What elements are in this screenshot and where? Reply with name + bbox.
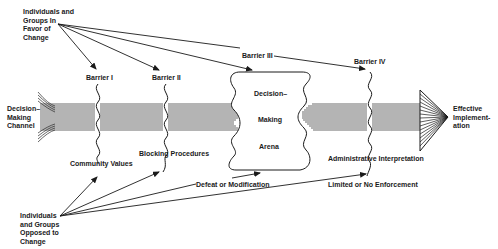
outcome-label: Effective Implement- ation bbox=[453, 105, 490, 131]
arena-label-line1: Decision– bbox=[254, 90, 287, 99]
barrier-4-label: Barrier IV bbox=[354, 58, 386, 67]
opposed-arrows bbox=[60, 172, 366, 216]
channel-segment-3 bbox=[168, 104, 242, 130]
barrier-2-line bbox=[163, 84, 168, 172]
opposed-group-label: Individuals and Groups Opposed to Change bbox=[20, 212, 59, 246]
enforcement-label: Limited or No Enforcement bbox=[328, 181, 418, 190]
channel-stripes bbox=[38, 92, 420, 142]
barrier-diagram bbox=[0, 0, 498, 249]
defeat-modification-label: Defeat or Modification bbox=[196, 181, 270, 190]
in-favor-arrows bbox=[58, 24, 365, 70]
barrier-1-label: Barrier I bbox=[86, 74, 113, 83]
channel-segment-1 bbox=[40, 104, 95, 130]
channel-segment-4 bbox=[302, 104, 367, 130]
channel-fan-in bbox=[38, 92, 55, 142]
barrier-1-line bbox=[96, 84, 99, 164]
arena-label-line2: Making bbox=[258, 116, 282, 125]
in-favor-group-label: Individuals and Groups In Favor of Chang… bbox=[23, 8, 74, 42]
barrier-2-label: Barrier II bbox=[152, 74, 181, 83]
community-values-label: Community Values bbox=[70, 160, 133, 169]
blocking-procedures-label: Blocking Procedures bbox=[139, 150, 209, 159]
channel-segment-5 bbox=[372, 104, 420, 130]
channel-label: Decision– Making Channel bbox=[7, 105, 40, 131]
channel-segment-2 bbox=[100, 104, 163, 130]
arena-label-line3: Arena bbox=[259, 143, 279, 152]
administrative-interpretation-label: Administrative Interpretation bbox=[328, 155, 424, 164]
implementation-arrowhead bbox=[420, 90, 448, 151]
barrier-3-label: Barrier III bbox=[242, 52, 273, 61]
